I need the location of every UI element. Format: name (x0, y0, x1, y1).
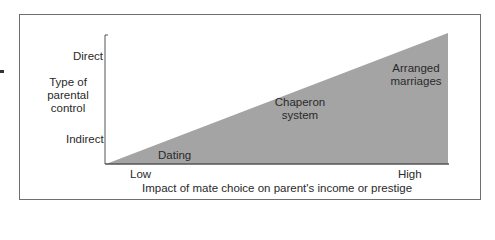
y-axis-top-label: Direct (73, 50, 103, 63)
y-axis-bottom-label: Indirect (66, 133, 104, 146)
y-axis-title-line: parental (42, 89, 94, 102)
region-label-line: Arranged (386, 62, 446, 75)
region-label-dating: Dating (158, 149, 191, 162)
x-axis-high-label: High (398, 168, 422, 181)
x-axis-low-label: Low (130, 168, 151, 181)
region-label-chaperon-system: Chaperon system (270, 96, 330, 122)
y-axis-line (105, 35, 108, 164)
region-label-line: marriages (386, 75, 446, 88)
y-axis-title-line: control (42, 102, 94, 115)
region-label-arranged-marriages: Arranged marriages (386, 62, 446, 88)
y-axis-title-line: Type of (42, 76, 94, 89)
x-axis-title: Impact of mate choice on parent's income… (142, 182, 412, 195)
y-axis-title: Type of parental control (42, 76, 94, 115)
region-label-line: system (270, 109, 330, 122)
region-label-line: Chaperon (270, 96, 330, 109)
